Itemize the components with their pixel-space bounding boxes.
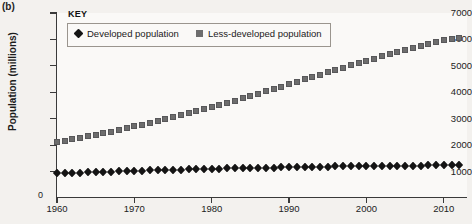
data-point bbox=[232, 98, 238, 104]
data-point bbox=[54, 139, 60, 145]
data-point bbox=[379, 53, 385, 59]
data-point bbox=[247, 93, 253, 99]
x-axis-tick-label: 1990 bbox=[269, 203, 309, 214]
y-axis-tick bbox=[50, 118, 56, 119]
y-axis-tick-label: 3000 bbox=[426, 113, 472, 124]
diamond-marker-icon bbox=[74, 29, 84, 39]
y-axis-tick-label: 5000 bbox=[426, 60, 472, 71]
data-point bbox=[449, 36, 455, 42]
data-point bbox=[387, 51, 393, 57]
data-point bbox=[371, 56, 377, 62]
data-point bbox=[178, 112, 184, 118]
data-point bbox=[441, 37, 447, 43]
legend-item-developed-population: Developed population bbox=[75, 28, 179, 39]
x-axis-tick-label: 1980 bbox=[192, 203, 232, 214]
data-point bbox=[116, 127, 122, 133]
data-point bbox=[85, 133, 91, 139]
legend-label-developed: Developed population bbox=[87, 28, 179, 39]
y-axis-tick-label: 7000 bbox=[426, 7, 472, 18]
square-marker-icon bbox=[196, 30, 203, 37]
data-point bbox=[418, 43, 424, 49]
data-point bbox=[302, 76, 308, 82]
data-point bbox=[224, 100, 230, 106]
data-point bbox=[286, 81, 292, 87]
data-point bbox=[147, 120, 153, 126]
x-axis-line bbox=[56, 197, 467, 198]
data-point bbox=[356, 60, 362, 66]
data-point bbox=[69, 136, 75, 142]
data-point bbox=[363, 58, 369, 64]
data-point bbox=[201, 106, 207, 112]
y-axis-tick-label: 4000 bbox=[426, 86, 472, 97]
x-axis-tick-label: 1970 bbox=[114, 203, 154, 214]
x-axis-tick-label: 1960 bbox=[37, 203, 77, 214]
data-point bbox=[162, 116, 168, 122]
y-axis-tick bbox=[50, 39, 56, 40]
data-point bbox=[271, 86, 277, 92]
y-axis-zero-label: 0 bbox=[38, 190, 43, 200]
data-point bbox=[108, 129, 114, 135]
data-point bbox=[325, 69, 331, 75]
y-axis-title: Population (millions) bbox=[7, 12, 18, 152]
data-point bbox=[216, 102, 222, 108]
data-point bbox=[170, 114, 176, 120]
legend-label-less-developed: Less-developed population bbox=[208, 28, 322, 39]
data-point bbox=[309, 74, 315, 80]
y-axis-tick bbox=[50, 65, 56, 66]
data-point bbox=[278, 84, 284, 90]
data-point bbox=[193, 108, 199, 114]
data-point bbox=[124, 125, 130, 131]
data-point bbox=[155, 118, 161, 124]
y-axis-tick-label: 2000 bbox=[426, 139, 472, 150]
population-growth-chart-figure: (b) Population (millions) 10002000300040… bbox=[0, 0, 472, 224]
data-point bbox=[348, 62, 354, 68]
y-axis-tick bbox=[50, 12, 56, 13]
data-point bbox=[263, 88, 269, 94]
data-point bbox=[77, 135, 83, 141]
data-point bbox=[425, 41, 431, 47]
data-point bbox=[433, 39, 439, 45]
data-point bbox=[186, 110, 192, 116]
panel-label: (b) bbox=[2, 1, 15, 12]
data-point bbox=[456, 35, 462, 41]
data-point bbox=[255, 91, 261, 97]
y-axis-tick bbox=[50, 92, 56, 93]
data-point bbox=[100, 130, 106, 136]
legend-item-less-developed-population: Less-developed population bbox=[196, 28, 322, 39]
data-point bbox=[139, 122, 145, 128]
data-point bbox=[332, 67, 338, 73]
data-point bbox=[340, 65, 346, 71]
x-axis-tick-label: 2000 bbox=[346, 203, 386, 214]
legend-title: KEY bbox=[68, 9, 87, 19]
data-point bbox=[62, 138, 68, 144]
data-point bbox=[294, 79, 300, 85]
data-point bbox=[394, 49, 400, 55]
data-point bbox=[317, 72, 323, 78]
data-point bbox=[93, 132, 99, 138]
data-point bbox=[131, 123, 137, 129]
data-point bbox=[240, 95, 246, 101]
x-axis-tick-label: 2010 bbox=[424, 203, 464, 214]
data-point bbox=[410, 45, 416, 51]
data-point bbox=[209, 104, 215, 110]
legend-box: Developed population Less-developed popu… bbox=[67, 23, 331, 47]
data-point bbox=[402, 47, 408, 53]
